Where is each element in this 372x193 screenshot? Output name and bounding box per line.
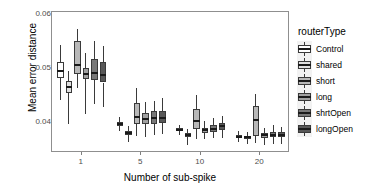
legend-key-median bbox=[298, 96, 311, 98]
median-line bbox=[91, 72, 97, 74]
box-rect bbox=[134, 103, 140, 124]
boxplot-box bbox=[159, 12, 165, 152]
legend-item-label: shrtOpen bbox=[316, 108, 351, 118]
median-line bbox=[261, 134, 267, 136]
median-line bbox=[210, 128, 216, 130]
boxplot-box bbox=[185, 12, 191, 152]
legend-key-median bbox=[298, 112, 311, 114]
x-tick-mark bbox=[140, 152, 141, 155]
median-line bbox=[83, 73, 89, 75]
whisker-lower bbox=[222, 130, 223, 138]
boxplot-box bbox=[83, 12, 89, 152]
whisker-lower bbox=[196, 129, 197, 139]
whisker-lower bbox=[187, 137, 188, 145]
legend-key-swatch bbox=[297, 41, 312, 57]
boxplot-box bbox=[202, 12, 208, 152]
legend-key-median bbox=[298, 128, 311, 130]
boxplot-box bbox=[253, 12, 259, 152]
x-tick-mark bbox=[81, 152, 82, 155]
whisker-lower bbox=[119, 126, 120, 131]
legend-key-median bbox=[298, 64, 311, 66]
boxplot-layer bbox=[52, 12, 288, 151]
boxplot-box bbox=[100, 12, 106, 152]
x-tick-mark bbox=[200, 152, 201, 155]
whisker-upper bbox=[60, 45, 61, 62]
x-tick-label: 20 bbox=[244, 157, 274, 166]
legend-key-swatch bbox=[297, 89, 312, 105]
boxplot-box bbox=[236, 12, 242, 152]
whisker-lower bbox=[204, 133, 205, 140]
x-tick-label: 1 bbox=[66, 157, 96, 166]
boxplot-box bbox=[210, 12, 216, 152]
whisker-lower bbox=[145, 124, 146, 138]
median-line bbox=[236, 136, 242, 138]
x-tick-mark bbox=[259, 152, 260, 155]
median-line bbox=[74, 64, 80, 66]
whisker-lower bbox=[154, 124, 155, 135]
legend-item[interactable]: longOpen bbox=[297, 121, 372, 137]
whisker-lower bbox=[264, 138, 265, 145]
whisker-upper bbox=[94, 41, 95, 59]
whisker-upper bbox=[222, 116, 223, 124]
whisker-lower bbox=[179, 131, 180, 135]
legend-key-median bbox=[298, 80, 311, 82]
median-line bbox=[134, 116, 140, 118]
whisker-upper bbox=[145, 102, 146, 113]
median-line bbox=[219, 125, 225, 127]
y-tick-label: 0.06 bbox=[25, 10, 51, 18]
whisker-upper bbox=[68, 71, 69, 81]
y-axis: 0.040.050.06 bbox=[18, 0, 51, 193]
boxplot-box bbox=[57, 12, 63, 152]
legend-items: ControlsharedshortlongshrtOpenlongOpen bbox=[297, 41, 372, 137]
median-line bbox=[151, 117, 157, 119]
median-line bbox=[278, 134, 284, 136]
legend-item-label: short bbox=[316, 76, 335, 86]
legend-item-label: Control bbox=[316, 44, 343, 54]
median-line bbox=[66, 86, 72, 88]
boxplot-box bbox=[244, 12, 250, 152]
x-axis: 151020 bbox=[51, 152, 289, 172]
x-tick-label: 5 bbox=[125, 157, 155, 166]
boxplot-box bbox=[74, 12, 80, 152]
boxplot-box bbox=[66, 12, 72, 152]
legend-key-swatch bbox=[297, 73, 312, 89]
legend-item-label: shared bbox=[316, 60, 342, 70]
box-rect bbox=[100, 62, 106, 82]
whisker-lower bbox=[213, 132, 214, 139]
whisker-lower bbox=[128, 135, 129, 143]
median-line bbox=[57, 70, 63, 72]
legend-item[interactable]: shared bbox=[297, 57, 372, 73]
legend-item[interactable]: Control bbox=[297, 41, 372, 57]
boxplot-box bbox=[219, 12, 225, 152]
boxplot-box bbox=[117, 12, 123, 152]
legend-title: routerType bbox=[298, 26, 372, 37]
whisker-upper bbox=[213, 118, 214, 126]
whisker-lower bbox=[60, 78, 61, 100]
legend-item[interactable]: long bbox=[297, 89, 372, 105]
median-line bbox=[193, 120, 199, 122]
box-rect bbox=[74, 41, 80, 74]
median-line bbox=[202, 129, 208, 131]
whisker-upper bbox=[162, 98, 163, 111]
whisker-upper bbox=[255, 94, 256, 106]
legend-item[interactable]: shrtOpen bbox=[297, 105, 372, 121]
legend-item-label: long bbox=[316, 92, 332, 102]
chart-root: Mean error distance 0.040.050.06 151020 … bbox=[0, 0, 372, 193]
whisker-upper bbox=[136, 88, 137, 103]
boxplot-box bbox=[193, 12, 199, 152]
boxplot-box bbox=[261, 12, 267, 152]
median-line bbox=[270, 134, 276, 136]
median-line bbox=[125, 132, 131, 134]
legend-key-swatch bbox=[297, 105, 312, 121]
median-line bbox=[253, 119, 259, 121]
legend-item[interactable]: short bbox=[297, 73, 372, 89]
whisker-upper bbox=[85, 53, 86, 69]
boxplot-box bbox=[142, 12, 148, 152]
boxplot-box bbox=[270, 12, 276, 152]
whisker-lower bbox=[281, 137, 282, 144]
median-line bbox=[176, 129, 182, 131]
whisker-lower bbox=[247, 139, 248, 144]
legend-key-swatch bbox=[297, 57, 312, 73]
median-line bbox=[100, 74, 106, 76]
boxplot-box bbox=[176, 12, 182, 152]
